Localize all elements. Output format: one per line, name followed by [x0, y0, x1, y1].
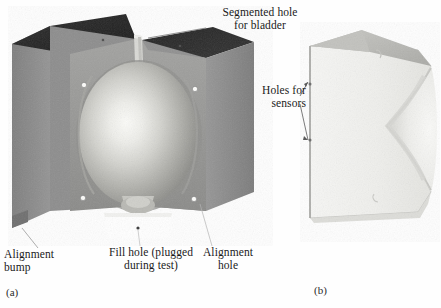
label-alignment-bump: Alignment bump	[4, 248, 84, 273]
label-segmented-hole-for-bladder: Segmented hole for bladder	[200, 6, 320, 31]
label-alignment-hole: Alignment hole	[190, 246, 266, 271]
grain-overlay	[8, 6, 273, 246]
grain-overlay-b	[300, 22, 440, 242]
panel-tag-b: (b)	[314, 284, 327, 296]
panel-tag-a: (a)	[6, 286, 18, 298]
label-holes-for-sensors: Holes for sensors	[248, 84, 306, 109]
panel-b-illustration	[300, 22, 440, 242]
figure-root: Segmented hole for bladder Holes for sen…	[0, 0, 441, 308]
panel-a-illustration	[8, 6, 273, 246]
